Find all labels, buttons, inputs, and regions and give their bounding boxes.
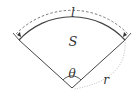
right-radius-edge: [72, 40, 125, 88]
area-label: S: [69, 34, 78, 49]
angle-label: θ: [68, 67, 76, 81]
left-radius-edge: [19, 40, 72, 88]
arc-length-label: l: [71, 6, 75, 20]
sector-diagram: l S θ r: [0, 0, 137, 99]
radius-label: r: [103, 73, 110, 87]
